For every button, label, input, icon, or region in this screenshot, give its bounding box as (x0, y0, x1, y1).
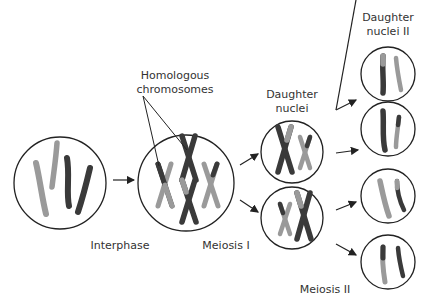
arrow-to-d2-2 (336, 150, 358, 153)
meiosis-diagram: Homologous chromosomes Daughter nuclei D… (0, 0, 436, 306)
arrow-to-daughter-top (240, 154, 258, 165)
label-interphase: Interphase (90, 239, 149, 252)
arrow-to-daughter-bottom (240, 200, 258, 212)
homologous-pointer-lines (143, 96, 187, 166)
arrow-to-d2-1 (336, 100, 356, 110)
label-daughter-2: nuclei (276, 102, 309, 115)
daughter-nucleus-top (261, 121, 323, 183)
daughter-nucleus-bottom (261, 187, 323, 249)
label-homologous-2: chromosomes (136, 83, 213, 96)
arrow-to-d2-3 (336, 202, 356, 210)
daughter-nucleus2-3 (361, 169, 415, 223)
label-daughter2-2: nuclei II (367, 25, 410, 38)
label-homologous-1: Homologous (141, 69, 210, 82)
label-daughter2-1: Daughter (362, 11, 414, 24)
label-meiosis1: Meiosis I (202, 239, 249, 252)
daughter-nucleus2-1 (361, 47, 415, 101)
label-daughter-1: Daughter (266, 88, 318, 101)
daughter-nucleus2-4 (361, 235, 415, 289)
arrow-to-d2-4 (336, 244, 356, 255)
daughter-nucleus2-2 (361, 102, 415, 156)
label-meiosis2: Meiosis II (300, 283, 351, 296)
interphase-cell (14, 137, 106, 229)
